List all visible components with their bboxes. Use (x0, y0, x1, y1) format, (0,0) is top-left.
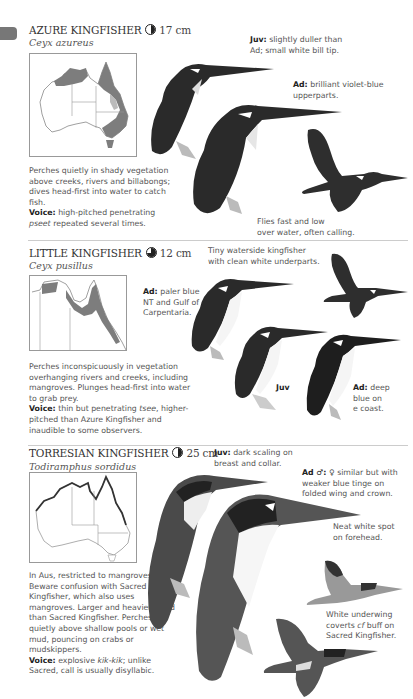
scientific-name: Todiramphus sordidus (29, 461, 136, 472)
common-name: TORRESIAN KINGFISHER (29, 447, 168, 459)
common-name: LITTLE KINGFISHER (29, 247, 142, 259)
note-juvenile: Juv: slightly duller thanAd; small white… (250, 35, 342, 56)
species-title: TORRESIAN KINGFISHER25 cm (29, 447, 218, 459)
little-kingfisher-adult-east-illustration (305, 330, 405, 425)
note-flight: Flies fast and lowover water, often call… (257, 217, 355, 238)
range-map (29, 472, 137, 563)
australia-map-icon (30, 54, 136, 156)
section-divider (28, 240, 408, 241)
half-circle-icon (145, 24, 156, 35)
voice-label: Voice: (29, 656, 56, 665)
note-juvenile: Juv: dark scaling onbreast and collar. (214, 448, 293, 469)
little-kingfisher-flight-illustration (320, 250, 410, 320)
section-divider (28, 445, 408, 446)
azure-kingfisher-flight-illustration (290, 120, 410, 220)
torresian-kingfisher-flight-upper-illustration (305, 557, 405, 607)
species-description: Perches quietly in shady vegetation abov… (29, 166, 179, 230)
size-label: 17 cm (159, 24, 191, 36)
species-title: LITTLE KINGFISHER12 cm (29, 247, 191, 259)
species-description: Perches inconspicuously in vegetation ov… (29, 362, 199, 436)
common-name: AZURE KINGFISHER (29, 24, 141, 36)
note-adult: Ad: brilliant violet-blueupperparts. (293, 80, 384, 101)
size-label: 12 cm (160, 247, 192, 259)
north-australia-map-icon (30, 276, 126, 350)
range-map (29, 53, 137, 157)
section-edge-tab (0, 27, 17, 40)
half-circle-icon (172, 447, 183, 458)
scientific-name: Ceyx azureus (29, 37, 94, 48)
note-general: Tiny waterside kingfisherwith clean whit… (208, 246, 320, 267)
torresian-kingfisher-flight-lower-illustration (260, 615, 380, 699)
australia-map-icon (30, 473, 136, 562)
scientific-name: Ceyx pusillus (29, 260, 93, 271)
voice-label: Voice: (29, 404, 56, 413)
species-title: AZURE KINGFISHER17 cm (29, 24, 191, 36)
quarter-circle-icon (146, 247, 157, 258)
voice-label: Voice: (29, 208, 56, 217)
range-map (29, 275, 127, 351)
